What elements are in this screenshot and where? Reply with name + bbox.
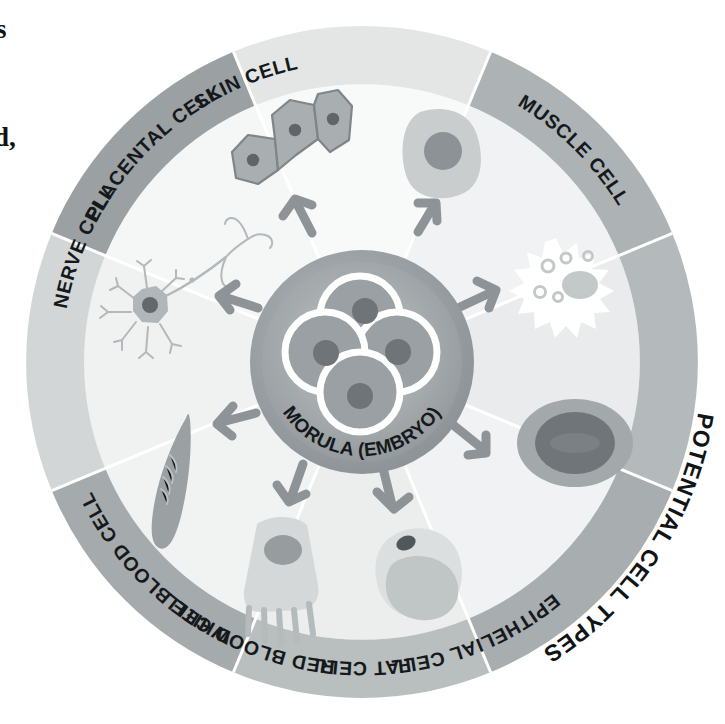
morula-hub[interactable]: MORULA (EMBRYO) bbox=[250, 250, 474, 474]
red-blood-cell-icon bbox=[517, 399, 633, 487]
figure-canvas: s d, bbox=[0, 0, 725, 724]
skin-cell-icon bbox=[403, 109, 481, 198]
potential-cell-types-wheel: MORULA (EMBRYO) PLACENTAL CELL SKIN CELL… bbox=[0, 0, 725, 724]
